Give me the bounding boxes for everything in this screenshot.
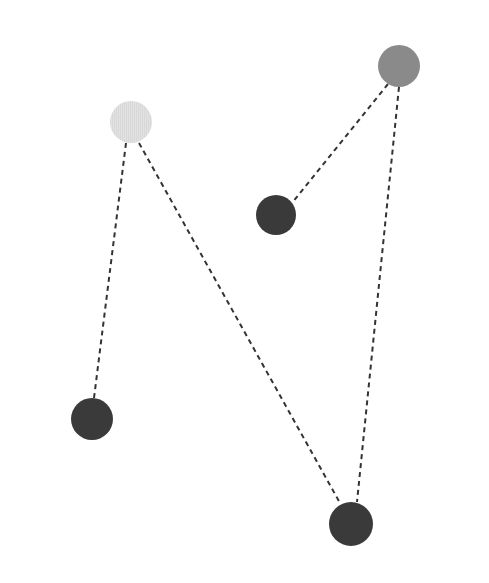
graph-node-dark-node-bottom-right[interactable] — [329, 502, 373, 546]
node-link-graph — [0, 0, 489, 583]
graph-node-medium-gray-node[interactable] — [378, 45, 420, 87]
graph-node-dark-node-bottom-left[interactable] — [71, 398, 113, 440]
diagram-canvas — [0, 0, 489, 583]
canvas-background — [0, 0, 489, 583]
graph-node-light-gray-node[interactable] — [110, 101, 152, 143]
graph-node-dark-node-center[interactable] — [256, 195, 296, 235]
